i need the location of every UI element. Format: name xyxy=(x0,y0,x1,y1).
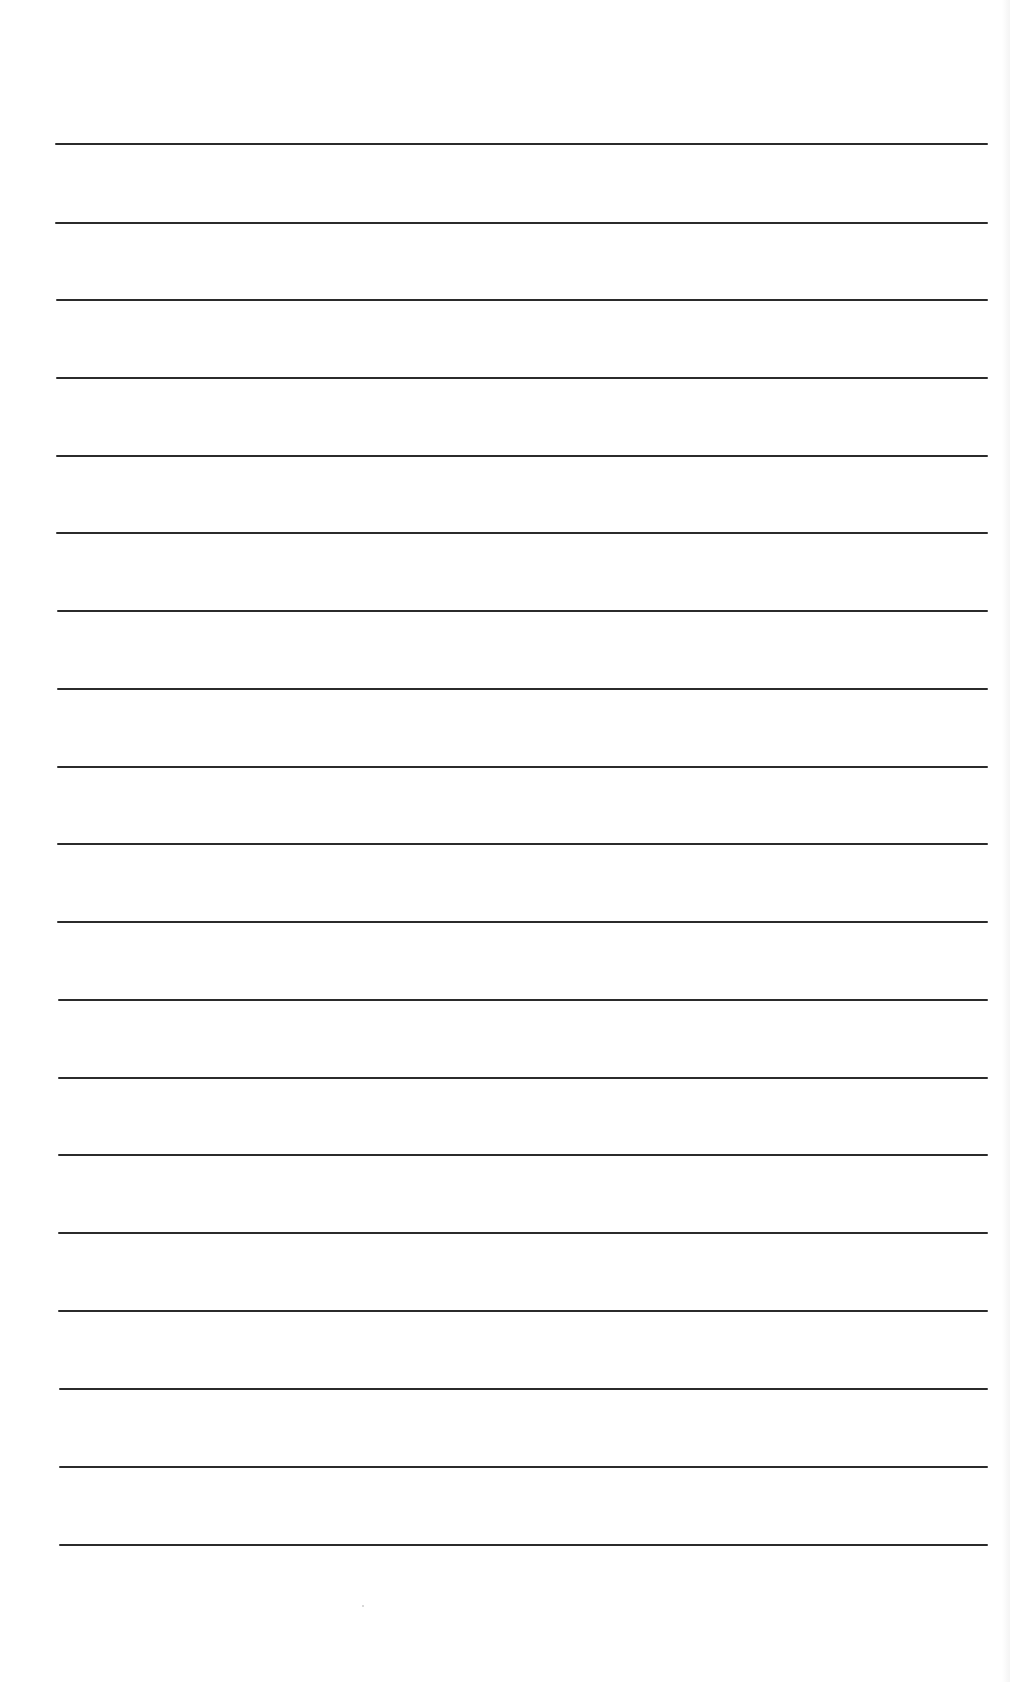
ruled-line xyxy=(55,143,988,145)
paper-speck xyxy=(362,1605,364,1607)
ruled-line xyxy=(57,688,988,690)
ruled-line xyxy=(58,1154,988,1156)
ruled-line xyxy=(56,299,988,301)
ruled-line xyxy=(55,222,988,224)
ruled-line xyxy=(58,1077,988,1079)
ruled-page xyxy=(0,0,1010,1682)
ruled-line xyxy=(58,1310,988,1312)
ruled-line xyxy=(59,1544,988,1546)
ruled-line xyxy=(57,921,988,923)
ruled-line xyxy=(56,532,988,534)
ruled-line xyxy=(59,1388,988,1390)
ruled-line xyxy=(58,999,988,1001)
ruled-line xyxy=(56,455,988,457)
page-edge-shadow xyxy=(1002,0,1010,1682)
ruled-line xyxy=(57,610,988,612)
ruled-line xyxy=(59,1466,988,1468)
ruled-line xyxy=(58,1232,988,1234)
ruled-line xyxy=(56,377,988,379)
ruled-line xyxy=(57,843,988,845)
ruled-line xyxy=(57,766,988,768)
